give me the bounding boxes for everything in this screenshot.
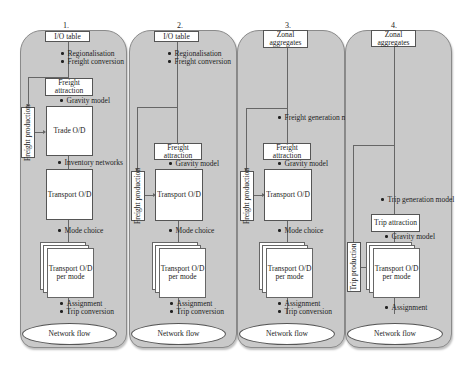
panel-2-number: 2. (170, 21, 190, 30)
panel-4-generation-note: Trip generation model (381, 196, 454, 204)
panel-4-number: 4. (384, 21, 404, 30)
panel-4-production-box: Trip production (347, 242, 361, 292)
panel-1-trade-od-box: Trade O/D (46, 106, 93, 156)
panel-2-mode-note: Mode choice (169, 227, 214, 235)
panel-1-attraction-box: Freight attraction (45, 78, 93, 96)
panel-1-network-flow: Network flow (22, 323, 117, 345)
panel-1-per-mode-stack: Transport O/D per mode (40, 242, 96, 300)
panel-4-gravity-note: Gravity model (385, 233, 435, 241)
panel-3-gravity-note: Gravity model (278, 160, 328, 168)
panel-4-attraction-box: Trip attraction (371, 214, 420, 232)
panel-1-transport-od-box: Transport O/D (46, 169, 93, 220)
panel-1-note: Freight conversion (61, 58, 124, 66)
panel-2-transport-od-box: Transport O/D (155, 169, 203, 221)
panel-2-network-flow: Network flow (131, 323, 226, 345)
panel-3-source-box: Zonal aggregates (263, 30, 308, 48)
panel-1-inventory-note: Inventory networks (58, 159, 123, 167)
panel-4-note: Assignment (385, 304, 427, 312)
panel-1-number: 1. (56, 21, 76, 30)
panel-2-attraction-box: Freight attraction (154, 143, 202, 160)
panel-1-production-box: Freight production (21, 107, 35, 158)
panel-2-source-box: I/O table (154, 31, 199, 42)
panel-3-transport-od-box: Transport O/D (264, 169, 312, 221)
panel-4-source-box: Zonal aggregates (371, 30, 416, 47)
panel-3-per-mode-stack: Transport O/D per mode (259, 242, 315, 300)
panel-3-network-flow: Network flow (239, 323, 335, 345)
panel-1-gravity-note: Gravity model (60, 97, 110, 105)
panel-3-attraction-box: Freight attraction (263, 143, 311, 160)
panel-4-network-flow: Network flow (347, 323, 443, 345)
panel-2-production-box: Freight production (131, 171, 145, 221)
panel-4-per-mode-stack: Transport O/D per mode (366, 242, 422, 300)
panel-4 (345, 30, 452, 348)
panel-1-note: Trip conversion (60, 308, 114, 316)
panel-3-mode-note: Mode choice (278, 227, 323, 235)
panel-3-note: Trip conversion (278, 308, 332, 316)
panel-1-source-box: I/O table (45, 31, 90, 42)
panel-2-note: Trip conversion (170, 308, 224, 316)
panel-2-gravity-note: Gravity model (169, 160, 219, 168)
panel-2-per-mode-stack: Transport O/D per mode (152, 242, 208, 300)
panel-3-production-box: Freight production (240, 171, 254, 221)
panel-1-mode-note: Mode choice (58, 227, 103, 235)
panel-3-number: 3. (278, 21, 298, 30)
panel-2-note: Freight conversion (168, 58, 231, 66)
